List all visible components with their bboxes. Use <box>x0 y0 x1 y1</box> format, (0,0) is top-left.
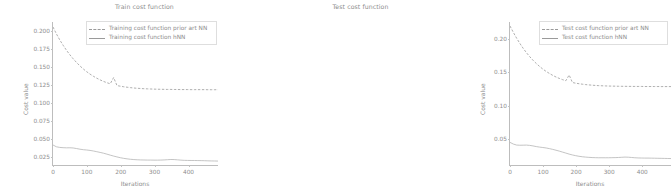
x-tick-mark-train <box>121 165 122 167</box>
x-tick-mark-test <box>576 165 577 167</box>
x-axis-label-test: Iterations <box>509 180 671 187</box>
panel-title-test: Test cost function <box>228 3 475 10</box>
legend-item-test-hnn[interactable]: Test cost function hNN <box>542 33 664 42</box>
legend-swatch-solid-icon <box>542 35 558 41</box>
x-tick-mark-test <box>510 165 511 167</box>
y-tick-label-train: 0.150 <box>33 64 50 70</box>
y-tick-label-test: 0.20 <box>494 36 507 42</box>
series-test-hnn <box>510 142 671 158</box>
x-tick-label-train: 300 <box>149 169 160 175</box>
y-tick-mark-train <box>51 139 53 140</box>
y-tick-mark-train <box>51 157 53 158</box>
legend-label-test-hnn: Test cost function hNN <box>562 33 627 42</box>
legend-test: Test cost function prior art NN Test cos… <box>539 21 668 45</box>
y-tick-mark-train <box>51 31 53 32</box>
series-train-hnn <box>53 145 218 161</box>
y-tick-mark-train <box>51 121 53 122</box>
y-tick-label-train: 0.100 <box>33 100 50 106</box>
panel-test-cost-function: Test cost function Cost value Iterations… <box>228 0 457 195</box>
x-tick-mark-train <box>155 165 156 167</box>
x-tick-label-test: 100 <box>538 169 549 175</box>
y-tick-label-train: 0.075 <box>33 118 50 124</box>
legend-item-train-prior-art[interactable]: Training cost function prior art NN <box>89 24 213 33</box>
y-axis-label-test: Cost value <box>479 83 486 115</box>
y-tick-mark-test <box>508 106 510 107</box>
x-tick-mark-train <box>189 165 190 167</box>
y-tick-label-train: 0.175 <box>33 46 50 52</box>
x-tick-mark-train <box>87 165 88 167</box>
y-tick-label-train: 0.125 <box>33 82 50 88</box>
panel-train-cost-function: Train cost function Cost value Iteration… <box>0 0 229 195</box>
legend-item-train-hnn[interactable]: Training cost function hNN <box>89 33 213 42</box>
legend-label-train-prior-art: Training cost function prior art NN <box>109 24 207 33</box>
panel-title-train: Train cost function <box>0 3 259 10</box>
y-tick-mark-test <box>508 72 510 73</box>
y-tick-label-test: 0.05 <box>494 136 507 142</box>
y-tick-mark-train <box>51 49 53 50</box>
y-tick-mark-train <box>51 67 53 68</box>
legend-swatch-solid-icon <box>89 35 105 41</box>
y-tick-label-train: 0.025 <box>33 154 50 160</box>
y-tick-mark-test <box>508 139 510 140</box>
y-tick-mark-train <box>51 103 53 104</box>
legend-swatch-dashed-icon <box>89 26 105 32</box>
y-tick-label-test: 0.10 <box>494 103 507 109</box>
x-tick-label-train: 0 <box>51 169 55 175</box>
y-tick-mark-train <box>51 85 53 86</box>
legend-label-test-prior-art: Test cost function prior art NN <box>562 24 649 33</box>
legend-train: Training cost function prior art NN Trai… <box>86 21 217 45</box>
x-tick-label-test: 400 <box>637 169 648 175</box>
x-tick-label-train: 200 <box>115 169 126 175</box>
x-tick-mark-train <box>53 165 54 167</box>
x-tick-mark-test <box>543 165 544 167</box>
y-tick-mark-test <box>508 39 510 40</box>
legend-item-test-prior-art[interactable]: Test cost function prior art NN <box>542 24 664 33</box>
x-tick-label-train: 400 <box>183 169 194 175</box>
y-axis-label-train: Cost value <box>22 83 29 115</box>
x-tick-mark-test <box>642 165 643 167</box>
y-tick-label-train: 0.200 <box>33 28 50 34</box>
x-tick-label-train: 100 <box>81 169 92 175</box>
y-tick-label-train: 0.050 <box>33 136 50 142</box>
x-tick-mark-test <box>609 165 610 167</box>
legend-swatch-dashed-icon <box>542 26 558 32</box>
x-axis-label-train: Iterations <box>52 180 218 187</box>
legend-label-train-hnn: Training cost function hNN <box>109 33 185 42</box>
y-tick-label-test: 0.15 <box>494 69 507 75</box>
x-tick-label-test: 0 <box>508 169 512 175</box>
x-tick-label-test: 200 <box>571 169 582 175</box>
x-tick-label-test: 300 <box>604 169 615 175</box>
